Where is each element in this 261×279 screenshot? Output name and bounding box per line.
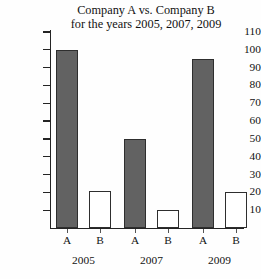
y-tick-70 bbox=[43, 103, 51, 104]
bar-2005-B bbox=[89, 191, 111, 228]
y-tick-20 bbox=[43, 192, 51, 193]
y-tick-30 bbox=[43, 174, 51, 175]
series-label-2005-A: A bbox=[50, 234, 84, 246]
x-tick-2007-B bbox=[168, 229, 169, 233]
y-tick-90 bbox=[43, 67, 51, 68]
plot-area: 110100908070605040302010 ABABAB 20052007… bbox=[0, 0, 261, 279]
y-tick-label-80: 80 bbox=[221, 79, 261, 90]
x-tick-2005-B bbox=[100, 229, 101, 233]
x-tick-2009-A bbox=[203, 229, 204, 233]
bar-2005-A bbox=[56, 50, 78, 228]
x-tick-2007-A bbox=[135, 229, 136, 233]
y-tick-10 bbox=[43, 210, 51, 211]
y-tick-label-70: 70 bbox=[221, 97, 261, 108]
x-tick-2005-A bbox=[67, 229, 68, 233]
series-label-2005-B: B bbox=[83, 234, 117, 246]
y-tick-50 bbox=[43, 138, 51, 139]
bar-2009-A bbox=[192, 59, 214, 228]
y-tick-60 bbox=[43, 120, 51, 121]
y-tick-label-110: 110 bbox=[221, 26, 261, 37]
bar-2009-B bbox=[225, 192, 247, 228]
series-label-2009-A: A bbox=[186, 234, 220, 246]
group-label-2009: 2009 bbox=[180, 254, 259, 266]
x-axis-line bbox=[50, 228, 244, 229]
y-tick-label-60: 60 bbox=[221, 115, 261, 126]
series-label-2007-B: B bbox=[151, 234, 185, 246]
x-tick-2009-B bbox=[236, 229, 237, 233]
y-tick-label-90: 90 bbox=[221, 62, 261, 73]
series-label-2007-A: A bbox=[118, 234, 152, 246]
y-tick-label-30: 30 bbox=[221, 169, 261, 180]
bar-chart-figure: Company A vs. Company B for the years 20… bbox=[0, 0, 261, 279]
y-tick-100 bbox=[43, 49, 51, 50]
y-tick-label-50: 50 bbox=[221, 133, 261, 144]
y-tick-110 bbox=[43, 31, 51, 32]
y-tick-label-100: 100 bbox=[221, 44, 261, 55]
bar-2007-A bbox=[124, 139, 146, 228]
y-tick-40 bbox=[43, 156, 51, 157]
y-tick-label-40: 40 bbox=[221, 151, 261, 162]
y-tick-80 bbox=[43, 85, 51, 86]
bar-2007-B bbox=[157, 210, 179, 228]
y-axis-line bbox=[50, 30, 51, 229]
series-label-2009-B: B bbox=[219, 234, 253, 246]
